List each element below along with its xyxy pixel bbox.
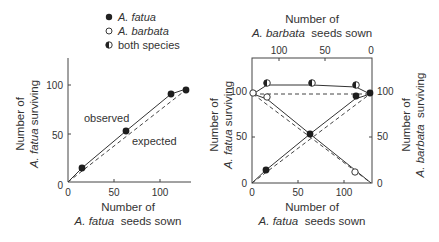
y-tick-label: 50 xyxy=(52,130,64,141)
y-tick-label: 0 xyxy=(241,178,247,189)
top-x-tick-label: 50 xyxy=(319,45,331,56)
data-point xyxy=(183,87,190,94)
svg-text:Number of: Number of xyxy=(400,97,412,151)
figure: A. fatua A. barbata both species 0 50 10… xyxy=(0,0,439,242)
x-axis-label-line2: A. fatua seeds sown xyxy=(74,215,182,227)
right-plot: 0 50 100 100 50 0 0 50 100 0 50 100 Numb… xyxy=(208,13,426,227)
both-point xyxy=(309,80,316,87)
legend-label: both species xyxy=(118,39,180,51)
svg-text:A. fatua surviving: A. fatua surviving xyxy=(222,81,234,170)
data-point xyxy=(79,165,86,172)
x-tick-label: 50 xyxy=(108,187,120,198)
annotation-observed: observed xyxy=(84,112,129,124)
x-tick-label: 0 xyxy=(249,187,255,198)
y-axis-label: Number of A. fatua surviving xyxy=(208,81,234,170)
right-y-tick-label: 50 xyxy=(377,131,389,142)
fatua-point xyxy=(367,90,374,97)
legend-item-both-species: both species xyxy=(106,39,180,51)
y-tick-label: 50 xyxy=(236,131,248,142)
top-x-tick-label: 0 xyxy=(368,45,374,56)
plot-frame xyxy=(252,58,372,183)
svg-text:A. barbata surviving: A. barbata surviving xyxy=(414,73,426,179)
fatua-point xyxy=(263,167,270,174)
x-tick-label: 50 xyxy=(292,187,304,198)
legend-item-a-fatua: A. fatua xyxy=(106,11,156,23)
x-axis-label-line2: A. fatua seeds sown xyxy=(258,215,366,227)
legend: A. fatua A. barbata both species xyxy=(106,11,180,51)
y-tick-label: 100 xyxy=(46,80,63,91)
top-x-tick-label: 100 xyxy=(271,45,288,56)
fatua-point xyxy=(353,93,360,100)
x-tick-label: 100 xyxy=(152,187,169,198)
top-x-axis-label-line2: A. barbata seeds sown xyxy=(251,27,372,39)
right-y-tick-label: 100 xyxy=(377,86,394,97)
x-axis-label: Number of xyxy=(101,201,155,213)
x-tick-label: 0 xyxy=(65,187,71,198)
data-point xyxy=(168,91,175,98)
svg-text:Number of: Number of xyxy=(14,96,26,150)
annotation-expected: expected xyxy=(132,135,177,147)
barbata-point xyxy=(264,94,270,100)
x-tick-label: 100 xyxy=(336,187,353,198)
half-filled-circle-icon xyxy=(106,42,112,48)
both-point xyxy=(353,82,360,89)
svg-text:Number of: Number of xyxy=(208,97,220,151)
right-y-tick-label: 0 xyxy=(377,178,383,189)
barbata-point xyxy=(352,169,358,175)
fatua-point xyxy=(307,131,314,138)
open-circle-icon xyxy=(106,28,112,34)
both-point xyxy=(264,80,271,87)
x-axis-label: Number of xyxy=(285,201,339,213)
y-axis-label: Number of A. fatua surviving xyxy=(14,80,40,169)
data-point xyxy=(123,128,130,135)
top-x-axis-label: Number of xyxy=(285,13,339,25)
legend-label: A. barbata xyxy=(117,25,169,37)
filled-circle-icon xyxy=(106,14,112,20)
y-tick-label: 0 xyxy=(57,180,63,191)
svg-text:A. fatua surviving: A. fatua surviving xyxy=(28,80,40,169)
left-plot: 0 50 100 0 50 100 Number of A. fatua see… xyxy=(14,58,191,227)
legend-item-a-barbata: A. barbata xyxy=(106,25,169,37)
legend-label: A. fatua xyxy=(117,11,156,23)
barbata-point xyxy=(250,90,256,96)
right-y-axis-label: Number of A. barbata surviving xyxy=(400,73,426,179)
